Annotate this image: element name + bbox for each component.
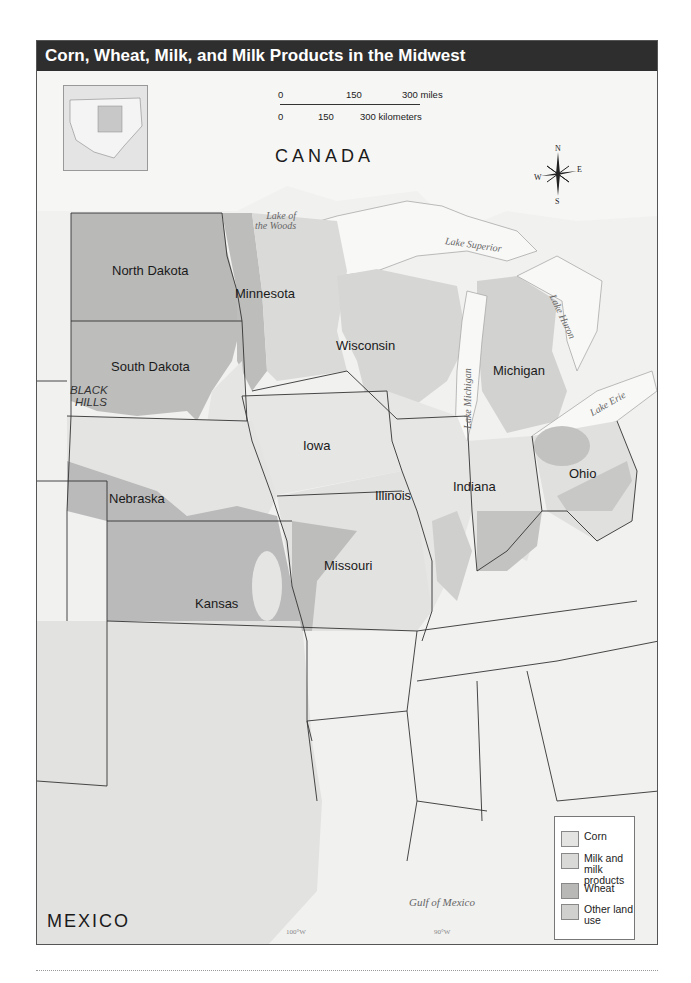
milk-swatch — [561, 853, 579, 869]
corn-swatch — [561, 831, 579, 847]
legend-item-other: Other land use — [561, 904, 633, 926]
label-minnesota: Minnesota — [235, 286, 295, 301]
compass-n: N — [555, 144, 561, 153]
scale-miles-0: 0 — [278, 89, 283, 100]
scale-miles-300: 300 miles — [402, 89, 443, 100]
svg-text:W: W — [534, 173, 542, 182]
map-title: Corn, Wheat, Milk, and Milk Products in … — [37, 41, 657, 71]
label-illinois: Illinois — [375, 488, 411, 503]
meridian-90w: 90°W — [434, 928, 450, 936]
label-mexico: MEXICO — [47, 911, 130, 932]
other-swatch — [561, 904, 579, 920]
label-missouri: Missouri — [324, 558, 372, 573]
wheat-swatch — [561, 883, 579, 899]
label-wisconsin: Wisconsin — [336, 338, 395, 353]
label-gulf-of-mexico: Gulf of Mexico — [409, 896, 475, 908]
scale-km-300: 300 kilometers — [360, 111, 422, 122]
label-north-dakota: North Dakota — [112, 263, 189, 278]
label-iowa: Iowa — [303, 438, 330, 453]
label-lake-michigan: Lake Michigan — [462, 368, 473, 428]
scale-miles-150: 150 — [346, 89, 362, 100]
page-divider — [36, 970, 658, 971]
scale-line — [280, 104, 420, 105]
scale-km-0: 0 — [278, 111, 283, 122]
label-indiana: Indiana — [453, 479, 496, 494]
map-legend: Corn Milk and milk products Wheat Other … — [554, 816, 635, 940]
legend-item-wheat: Wheat — [561, 883, 614, 899]
scale-bar: 0 150 300 miles 0 150 300 kilometers — [278, 89, 448, 129]
label-michigan: Michigan — [493, 363, 545, 378]
svg-text:S: S — [555, 197, 559, 204]
label-ohio: Ohio — [569, 466, 596, 481]
label-kansas: Kansas — [195, 596, 238, 611]
legend-item-corn: Corn — [561, 831, 607, 847]
map-frame: Corn, Wheat, Milk, and Milk Products in … — [36, 40, 658, 945]
label-lake-of-the-woods: Lake of the Woods — [255, 211, 296, 231]
compass-icon: N W E S — [533, 144, 583, 204]
label-black-hills: BLACK HILLS — [69, 384, 108, 408]
label-canada: CANADA — [275, 146, 374, 167]
label-nebraska: Nebraska — [109, 491, 165, 506]
label-south-dakota: South Dakota — [111, 359, 190, 374]
svg-text:E: E — [577, 165, 582, 174]
us-locator-inset — [63, 85, 148, 171]
scale-km-150: 150 — [318, 111, 334, 122]
locator-map-icon — [64, 86, 147, 170]
compass-rose: N W E S — [533, 144, 583, 204]
meridian-100w: 100°W — [286, 928, 306, 936]
